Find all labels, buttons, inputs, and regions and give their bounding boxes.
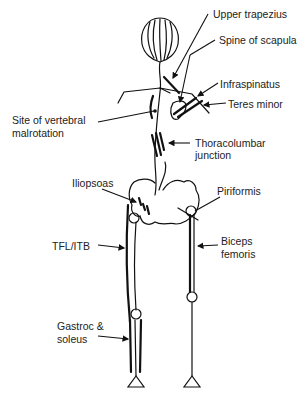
label-infraspinatus: Infraspinatus [220,78,280,90]
anatomy-diagram: Upper trapezius Spine of scapula Infrasp… [0,0,302,402]
label-gastroc-2: soleus [57,333,87,345]
label-vertebral-2: malrotation [12,127,64,139]
head-icon [142,18,179,62]
label-gastroc-1: Gastroc & [57,320,104,332]
label-thoracolumbar-1: Thoracolumbar [195,137,266,149]
label-tfl-itb: TFL/ITB [52,240,90,252]
label-thoracolumbar-2: junction [195,149,231,161]
label-spine-of-scapula: Spine of scapula [219,34,297,46]
label-vertebral-1: Site of vertebral [12,114,86,126]
label-teres-minor: Teres minor [228,98,283,110]
stick-figure-drawing [0,0,302,402]
label-biceps-2: femoris [221,248,255,260]
label-biceps-1: Biceps [221,235,253,247]
label-pointers [98,14,226,339]
label-piriformis: Piriformis [217,185,261,197]
label-iliopsoas: Iliopsoas [72,177,113,189]
label-upper-trapezius: Upper trapezius [213,8,287,20]
